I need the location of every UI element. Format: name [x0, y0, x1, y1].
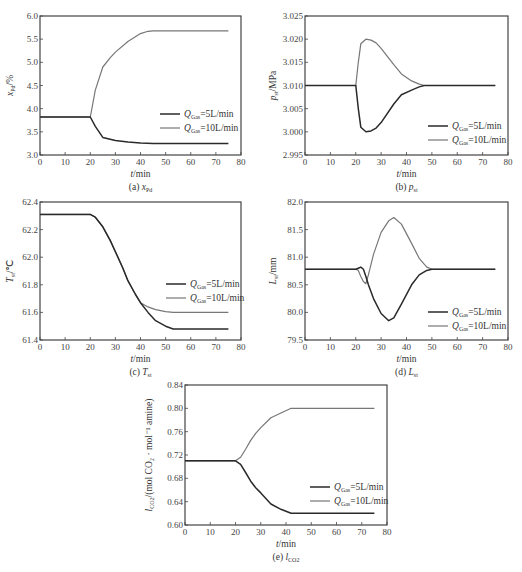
y-axis-label: pst/MPa [268, 70, 279, 101]
x-tick-label: 30 [111, 157, 121, 167]
y-tick-label: 80.0 [287, 307, 303, 317]
x-axis-label: t/min [130, 169, 150, 179]
series-line-10L [305, 39, 495, 85]
legend-label: QGas=5L/min [452, 307, 502, 318]
y-tick-label: 61.8 [22, 280, 38, 290]
x-axis-label: t/min [130, 354, 150, 364]
x-tick-label: 80 [504, 157, 514, 167]
x-tick-label: 30 [377, 157, 387, 167]
x-tick-label: 60 [332, 527, 342, 537]
legend-label: QGas=5L/min [334, 482, 384, 493]
x-tick-label: 20 [231, 527, 241, 537]
series-line-10L [40, 31, 228, 117]
chart-c: 0102030405060708061.461.661.862.062.262.… [5, 197, 246, 378]
x-tick-label: 30 [111, 342, 121, 352]
x-tick-label: 20 [86, 342, 96, 352]
y-axis-label: Tst/℃ [5, 260, 16, 283]
chart-caption: (d) Lst [395, 367, 418, 378]
figure-canvas: 010203040506070803.03.54.04.55.05.56.0t/… [0, 0, 522, 572]
y-tick-label: 0.72 [167, 450, 183, 460]
x-tick-label: 60 [186, 157, 196, 167]
y-tick-label: 61.4 [22, 335, 38, 345]
y-tick-label: 5.0 [27, 57, 39, 67]
x-tick-label: 0 [303, 157, 308, 167]
x-tick-label: 20 [351, 157, 361, 167]
legend-label: QGas=10L/min [190, 293, 245, 304]
y-tick-label: 79.5 [287, 335, 303, 345]
x-tick-label: 70 [478, 342, 488, 352]
y-tick-label: 81.5 [287, 225, 303, 235]
legend-label: QGas=10L/min [334, 496, 389, 507]
y-axis-label: lCO2/(mol CO₂ · mol⁻¹ amine) [144, 399, 155, 512]
x-axis-label: t/min [396, 354, 416, 364]
x-tick-label: 80 [237, 342, 247, 352]
x-tick-label: 40 [282, 527, 292, 537]
legend-label: QGas=5L/min [452, 121, 502, 132]
y-tick-label: 0.76 [167, 427, 183, 437]
y-tick-label: 3.015 [283, 57, 304, 67]
plot-frame [305, 202, 508, 340]
x-tick-label: 50 [307, 527, 317, 537]
plot-frame [40, 16, 241, 155]
y-tick-label: 80.5 [287, 280, 303, 290]
y-tick-label: 4.0 [27, 104, 39, 114]
x-tick-label: 20 [351, 342, 361, 352]
x-tick-label: 30 [377, 342, 387, 352]
y-tick-label: 3.025 [283, 11, 304, 21]
legend-label: QGas=5L/min [184, 109, 234, 120]
y-tick-label: 0.84 [167, 380, 183, 390]
y-tick-label: 3.020 [283, 34, 304, 44]
x-tick-label: 50 [427, 342, 437, 352]
y-tick-label: 61.6 [22, 307, 38, 317]
y-tick-label: 62.0 [22, 252, 38, 262]
y-tick-label: 4.5 [27, 81, 39, 91]
x-tick-label: 0 [183, 527, 188, 537]
x-tick-label: 60 [453, 342, 463, 352]
x-tick-label: 80 [383, 527, 393, 537]
y-tick-label: 3.005 [283, 104, 304, 114]
x-tick-label: 70 [478, 157, 488, 167]
x-tick-label: 10 [61, 157, 71, 167]
chart-a: 010203040506070803.03.54.04.55.05.56.0t/… [5, 11, 246, 193]
x-axis-label: t/min [276, 539, 296, 549]
x-tick-label: 40 [402, 157, 412, 167]
x-tick-label: 80 [504, 342, 514, 352]
x-tick-label: 10 [206, 527, 216, 537]
y-axis-label: Lst/mm [268, 257, 279, 285]
y-tick-label: 3.010 [283, 81, 304, 91]
y-axis-label: xPd/% [5, 75, 16, 97]
x-tick-label: 40 [136, 157, 146, 167]
x-tick-label: 20 [86, 157, 96, 167]
y-tick-label: 6.0 [27, 11, 39, 21]
y-tick-label: 62.4 [22, 197, 38, 207]
legend-label: QGas=10L/min [184, 123, 239, 134]
legend-label: QGas=5L/min [190, 279, 240, 290]
y-tick-label: 5.5 [27, 34, 39, 44]
x-tick-label: 70 [211, 157, 221, 167]
x-tick-label: 10 [326, 342, 336, 352]
x-tick-label: 50 [427, 157, 437, 167]
legend-label: QGas=10L/min [452, 135, 507, 146]
chart-d: 0102030405060708079.580.080.581.081.582.… [268, 197, 513, 378]
series-line-10L [185, 408, 374, 461]
y-tick-label: 0.80 [167, 403, 183, 413]
x-tick-label: 60 [186, 342, 196, 352]
y-tick-label: 2.995 [283, 150, 304, 160]
x-tick-label: 70 [357, 527, 367, 537]
x-tick-label: 40 [402, 342, 412, 352]
x-axis-label: t/min [396, 169, 416, 179]
chart-caption: (e) lCO2 [273, 552, 300, 563]
x-tick-label: 10 [61, 342, 71, 352]
y-tick-label: 0.68 [167, 473, 183, 483]
series-line-5L [305, 86, 495, 132]
x-tick-label: 80 [237, 157, 247, 167]
chart-caption: (c) Tst [129, 367, 152, 378]
x-tick-label: 0 [38, 342, 43, 352]
chart-caption: (a) xPd [129, 182, 152, 193]
legend-label: QGas=10L/min [452, 321, 507, 332]
x-tick-label: 0 [303, 342, 308, 352]
y-tick-label: 82.0 [287, 197, 303, 207]
x-tick-label: 30 [256, 527, 266, 537]
y-tick-label: 3.5 [27, 127, 39, 137]
y-tick-label: 3.0 [27, 150, 39, 160]
